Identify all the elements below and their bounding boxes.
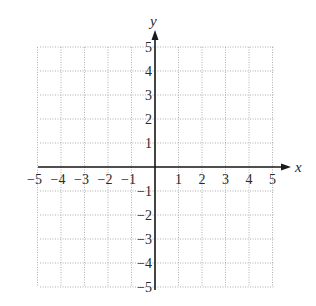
x-tick-label: −1 bbox=[121, 172, 136, 187]
x-axis-label: x bbox=[294, 159, 302, 175]
x-tick-label: 3 bbox=[222, 172, 229, 187]
x-tick-label: 4 bbox=[246, 172, 253, 187]
y-tick-label: 2 bbox=[145, 112, 152, 127]
x-tick-label: −3 bbox=[74, 172, 89, 187]
x-tick-label: 5 bbox=[269, 172, 276, 187]
y-tick-label: 5 bbox=[145, 40, 152, 55]
y-tick-label: 1 bbox=[145, 136, 152, 151]
x-tick-label: 2 bbox=[199, 172, 206, 187]
y-tick-label: −1 bbox=[137, 184, 152, 199]
x-axis-arrow-icon bbox=[281, 164, 291, 171]
x-tick-label: −4 bbox=[51, 172, 66, 187]
coordinate-plane: x y −5−4−3−2−112345 54321−1−2−3−4−5 bbox=[0, 0, 316, 306]
y-tick-label: −3 bbox=[137, 232, 152, 247]
y-axis-label: y bbox=[148, 13, 157, 29]
y-tick-label: −5 bbox=[137, 280, 152, 295]
x-tick-label: 1 bbox=[175, 172, 182, 187]
x-tick-label: −5 bbox=[27, 172, 42, 187]
x-tick-label: −2 bbox=[98, 172, 113, 187]
axes: x y bbox=[38, 13, 302, 290]
y-tick-label: 3 bbox=[145, 88, 152, 103]
y-axis-arrow-icon bbox=[152, 30, 159, 40]
y-tick-label: −2 bbox=[137, 208, 152, 223]
y-tick-label: 4 bbox=[145, 64, 152, 79]
y-tick-label: −4 bbox=[137, 256, 152, 271]
